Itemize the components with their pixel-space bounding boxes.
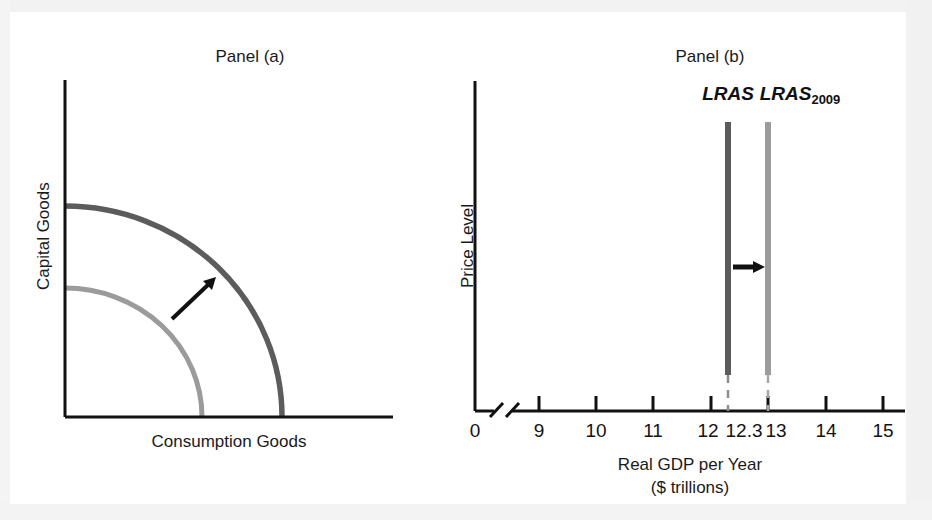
x-tick-label-12-3: 12.3 xyxy=(726,420,763,442)
panel-a-title: Panel (a) xyxy=(216,47,285,67)
panel-b-x-axis-label-line1: Real GDP per Year xyxy=(618,455,762,475)
x-tick-label-9: 9 xyxy=(534,420,545,442)
x-tick-label-14: 14 xyxy=(815,420,836,442)
economics-figure: Panel (a) Capital Goods Consumption Good… xyxy=(0,0,932,520)
panel-b-x-ticks xyxy=(539,396,883,411)
rightward-shift-arrow xyxy=(733,261,765,273)
panel-b-x-axis-label-line2: ($ trillions) xyxy=(651,478,729,498)
x-tick-label-0: 0 xyxy=(470,420,481,442)
panel-a-x-axis-label: Consumption Goods xyxy=(152,432,307,452)
lras-2009-label: LRAS2009 xyxy=(760,83,841,105)
x-tick-label-15: 15 xyxy=(872,420,893,442)
lras-2009-label-subscript: 2009 xyxy=(811,92,840,107)
outward-shift-arrow xyxy=(172,277,216,319)
x-tick-label-12: 12 xyxy=(697,420,718,442)
panel-a-graphics xyxy=(65,80,393,417)
x-tick-label-11: 11 xyxy=(643,420,663,442)
panel-b-graphics xyxy=(475,81,905,417)
lras-initial-label: LRAS xyxy=(702,83,754,105)
lras-2009-label-text: LRAS xyxy=(760,83,812,104)
panel-b-y-axis-label: Price Level xyxy=(458,204,478,288)
panel-a-y-axis-label: Capital Goods xyxy=(34,182,54,290)
lras-initial-label-text: LRAS xyxy=(702,83,754,104)
x-tick-label-10: 10 xyxy=(585,420,606,442)
panel-b-title: Panel (b) xyxy=(676,47,745,67)
expanded-ppc-curve xyxy=(65,206,282,417)
x-tick-label-13: 13 xyxy=(765,420,786,442)
